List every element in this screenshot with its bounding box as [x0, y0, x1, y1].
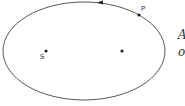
side-text-o: o — [178, 45, 185, 59]
orbit-diagram — [0, 0, 185, 106]
planet-point — [137, 13, 140, 16]
direction-arrow-icon — [97, 1, 103, 5]
planet-label: P — [141, 5, 145, 13]
center-point — [120, 49, 123, 52]
orbit-ellipse — [3, 2, 165, 100]
side-text-a: A — [178, 28, 185, 42]
focus-label: S — [40, 53, 44, 61]
focus-point — [44, 49, 47, 52]
